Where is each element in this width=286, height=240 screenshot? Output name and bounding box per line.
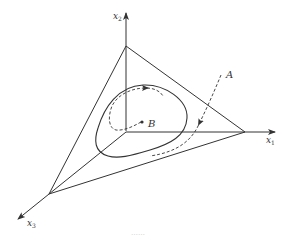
label-x1: x1	[266, 135, 275, 146]
diagram-canvas: x2 x1 x3 B A	[0, 0, 286, 240]
label-x2: x2	[113, 11, 122, 22]
label-a: A	[225, 69, 233, 80]
axis-x3	[18, 132, 126, 219]
phase-diagram: x2 x1 x3 B A	[0, 0, 286, 240]
label-b: B	[147, 118, 155, 129]
figure-caption-fragment: ……	[128, 229, 148, 239]
simplex-triangle	[49, 46, 245, 194]
fixed-point-b	[140, 120, 143, 123]
label-x3: x3	[27, 218, 36, 229]
